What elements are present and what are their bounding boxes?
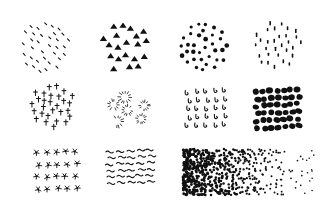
texture-sheet: [0, 0, 326, 214]
